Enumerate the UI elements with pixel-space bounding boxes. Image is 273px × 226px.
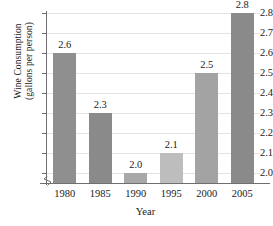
bar [160,153,183,183]
bar-value-label: 2.3 [80,100,120,111]
x-axis-title: Year [0,206,273,217]
x-tick-label: 1995 [151,188,191,199]
bar [124,173,147,183]
bar [89,113,112,183]
y-axis-title-line1: Wine Consumption [13,0,24,141]
bar-series [47,13,260,183]
x-tick-label: 1980 [45,188,85,199]
bar-value-label: 2.6 [45,40,85,51]
x-tick-label: 2005 [222,188,262,199]
x-tick-label: 2000 [187,188,227,199]
bar-value-label: 2.5 [187,60,227,71]
bar-value-label: 2.1 [151,140,191,151]
bar-value-label: 2.0 [116,160,156,171]
y-axis-title-line2: (gallons per person) [24,0,35,141]
bar [195,73,218,183]
bar-chart: Wine Consumption (gallons per person) 2.… [0,0,273,226]
x-axis-title-text: Year [136,206,155,217]
bar-value-label: 2.8 [222,0,262,11]
y-axis-title: Wine Consumption (gallons per person) [13,0,35,141]
x-axis-line [40,183,270,184]
x-tick-label: 1985 [80,188,120,199]
bar [53,53,76,183]
x-tick-label: 1990 [116,188,156,199]
bar [231,13,254,183]
